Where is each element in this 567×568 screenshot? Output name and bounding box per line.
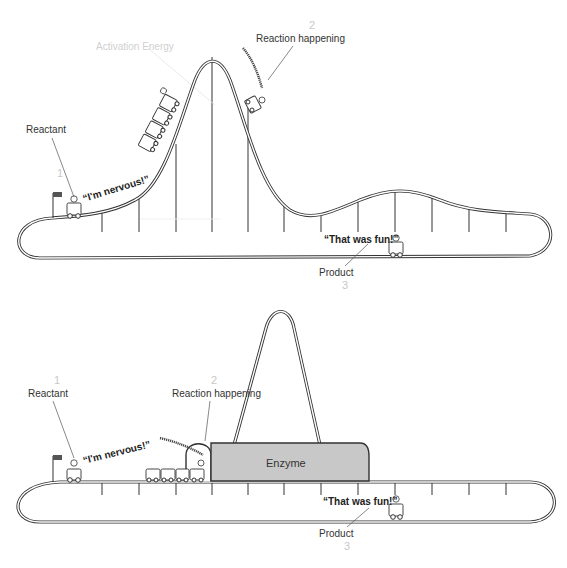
step-2-number: 2 [211,374,217,386]
product-leader [345,244,368,266]
reactant-leader [53,401,74,458]
step-1-number: 1 [54,374,60,386]
top-diagram: 1 Reactant Activation Energy 2 Reaction … [19,19,551,291]
top-track [19,61,551,258]
enzyme-block: Enzyme [211,443,369,481]
activation-energy-label: Activation Energy [96,41,174,52]
nervous-quote: “I'm nervous!” [81,173,150,204]
reaction-leader [205,401,210,441]
product-label: Product [319,267,354,278]
reaction-leader [268,46,293,80]
bottom-struts [102,483,506,495]
enzyme-label: Enzyme [266,457,306,469]
reactant-label: Reactant [28,388,68,399]
reaction-spring-icon [243,48,262,88]
reactant-label: Reactant [26,124,66,135]
bottom-peak-track [234,312,320,446]
start-flag-icon [53,455,62,482]
start-flag-icon [53,192,62,218]
product-leader [347,508,369,527]
step-3-number: 3 [342,279,348,291]
enzyme-rollercoaster-diagram: 1 Reactant Activation Energy 2 Reaction … [0,0,567,568]
reactant-leader [52,138,74,197]
descending-cart-icon [244,96,265,114]
climbing-carts-icon [133,87,183,153]
reactant-cart-icon [67,196,81,219]
bottom-diagram: Enzyme [18,312,554,553]
step-2-number: 2 [309,19,315,31]
top-struts [102,57,506,232]
product-label: Product [319,528,354,539]
reaction-happening-label: Reaction happening [256,33,345,44]
reaction-happening-label: Reaction happening [172,388,261,399]
bottom-track [18,482,554,522]
reactant-cart-icon [67,460,81,483]
fun-quote: “That was fun!” [324,234,398,245]
step-3-number: 3 [344,540,350,552]
fun-quote: “That was fun!” [323,496,397,507]
activation-energy-leader [148,48,215,105]
nervous-quote: “I'm nervous!” [82,439,152,466]
step-1-number: 1 [57,167,63,179]
